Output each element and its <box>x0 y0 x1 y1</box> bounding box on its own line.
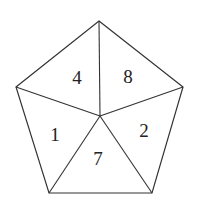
spoke-left <box>16 87 100 116</box>
region-label-left: 1 <box>50 124 60 145</box>
region-label-bottom: 7 <box>93 148 103 169</box>
spoke-top <box>99 21 100 116</box>
region-label-right: 2 <box>139 120 149 141</box>
pentagon-diagram: 4 8 2 7 1 <box>0 0 197 208</box>
diagram-canvas: 4 8 2 7 1 <box>0 0 197 208</box>
spoke-right <box>100 87 183 116</box>
region-label-top-right: 8 <box>123 66 133 87</box>
region-label-top-left: 4 <box>72 67 82 88</box>
